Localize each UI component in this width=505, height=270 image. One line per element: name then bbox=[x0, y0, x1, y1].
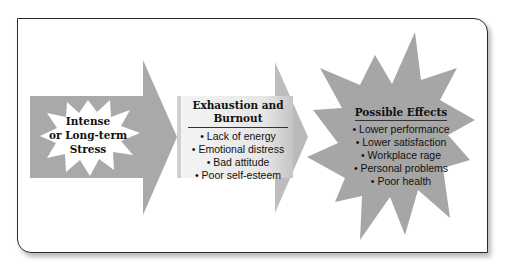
stress-label-line2: or Long-term bbox=[42, 128, 134, 142]
effects-title: Possible Effects bbox=[355, 106, 448, 121]
burnout-item: • Bad attitude bbox=[186, 156, 290, 169]
effects-item: • Lower satisfaction bbox=[345, 136, 457, 149]
effects-item: • Poor health bbox=[345, 175, 457, 188]
burnout-title-line2: Burnout bbox=[188, 112, 288, 125]
effects-box: Possible Effects • Lower performance • L… bbox=[345, 102, 457, 188]
burnout-title-line1: Exhaustion and bbox=[188, 99, 288, 112]
burnout-item: • Poor self-esteem bbox=[186, 169, 290, 182]
effects-item: • Personal problems bbox=[345, 162, 457, 175]
effects-item: • Workplace rage bbox=[345, 149, 457, 162]
burnout-box: Exhaustion and Burnout • Lack of energy … bbox=[186, 99, 290, 182]
effects-item: • Lower performance bbox=[345, 123, 457, 136]
burnout-item: • Lack of energy bbox=[186, 130, 290, 143]
effects-list: • Lower performance • Lower satisfaction… bbox=[345, 123, 457, 188]
burnout-item: • Emotional distress bbox=[186, 143, 290, 156]
burnout-title: Exhaustion and Burnout bbox=[188, 99, 288, 128]
burnout-list: • Lack of energy • Emotional distress • … bbox=[186, 130, 290, 182]
stress-label-line3: Stress bbox=[42, 142, 134, 156]
stress-label-line1: Intense bbox=[42, 114, 134, 128]
stress-label: Intense or Long-term Stress bbox=[42, 114, 134, 156]
